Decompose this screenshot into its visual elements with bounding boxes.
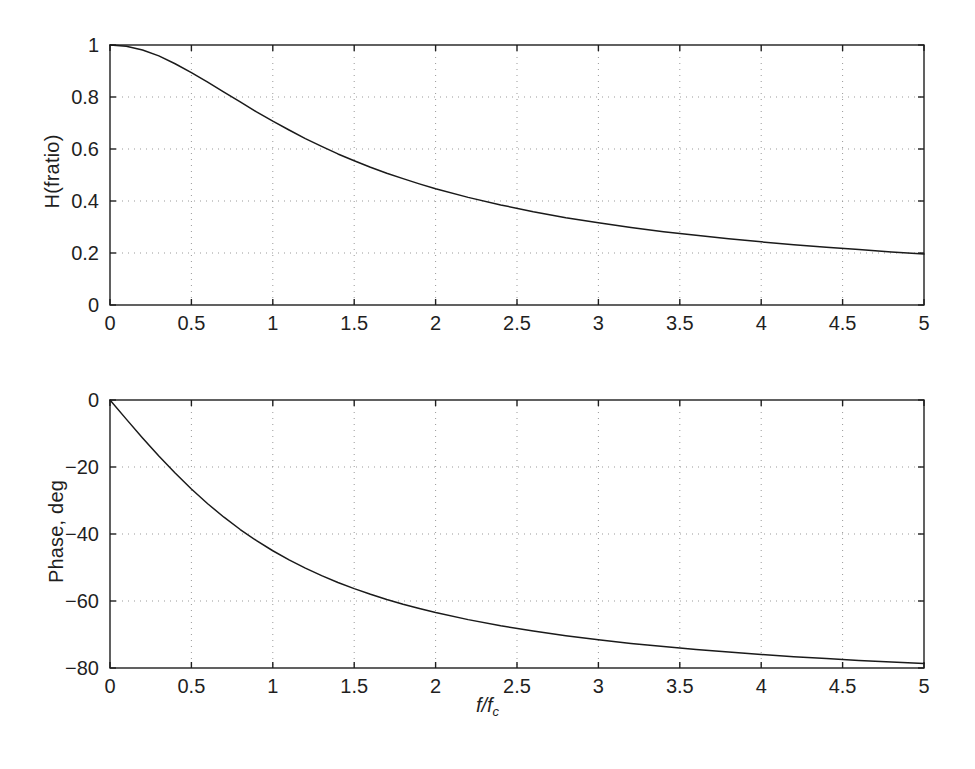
phase-x-tick-label: 0 (104, 675, 115, 698)
magnitude-y-tick-label: 0.6 (71, 138, 99, 161)
magnitude-x-tick-label: 0 (104, 312, 115, 335)
phase-y-tick-label: −40 (65, 523, 99, 546)
phase-x-tick-label: 0.5 (177, 675, 205, 698)
phase-x-tick-label: 2 (430, 675, 441, 698)
magnitude-y-tick-label: 0.2 (71, 242, 99, 265)
x-axis-label-main: f/f (476, 694, 493, 716)
magnitude-y-tick-label: 1 (88, 34, 99, 57)
plot-frame (110, 45, 924, 305)
magnitude-x-tick-label: 0.5 (177, 312, 205, 335)
magnitude-y-tick-label: 0.4 (71, 190, 99, 213)
magnitude-y-tick-label: 0.8 (71, 86, 99, 109)
magnitude-x-tick-label: 1 (267, 312, 278, 335)
data-curve-magnitude (110, 45, 924, 254)
magnitude-plot (110, 45, 924, 305)
phase-x-tick-label: 1 (267, 675, 278, 698)
phase-x-tick-label: 5 (918, 675, 929, 698)
magnitude-x-tick-label: 3 (593, 312, 604, 335)
x-axis-label-subscript: c (493, 704, 500, 719)
data-curve-phase (110, 400, 924, 664)
plot-canvas (0, 0, 975, 769)
magnitude-y-tick-label: 0 (88, 294, 99, 317)
magnitude-y-axis-label: H(fratio) (41, 87, 64, 257)
magnitude-x-tick-label: 2 (430, 312, 441, 335)
magnitude-x-tick-label: 3.5 (666, 312, 694, 335)
magnitude-x-tick-label: 1.5 (340, 312, 368, 335)
phase-x-tick-label: 3 (593, 675, 604, 698)
phase-x-tick-label: 1.5 (340, 675, 368, 698)
phase-y-tick-label: −60 (65, 590, 99, 613)
magnitude-x-tick-label: 2.5 (503, 312, 531, 335)
phase-y-tick-label: −20 (65, 456, 99, 479)
phase-y-tick-label: 0 (88, 389, 99, 412)
phase-x-tick-label: 2.5 (503, 675, 531, 698)
phase-x-tick-label: 3.5 (666, 675, 694, 698)
phase-x-tick-label: 4 (756, 675, 767, 698)
phase-plot (110, 400, 924, 668)
phase-y-tick-label: −80 (65, 657, 99, 680)
magnitude-x-tick-label: 4.5 (829, 312, 857, 335)
magnitude-x-tick-label: 4 (756, 312, 767, 335)
magnitude-x-tick-label: 5 (918, 312, 929, 335)
phase-y-axis-label: Phase, deg (45, 447, 68, 617)
figure-container: H(fratio) Phase, deg f/fc 00.20.40.60.81… (0, 0, 975, 769)
phase-x-tick-label: 4.5 (829, 675, 857, 698)
